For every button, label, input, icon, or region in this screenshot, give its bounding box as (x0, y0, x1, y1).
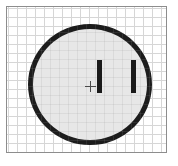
center-cross-icon (85, 81, 96, 92)
graph-paper-sheet (6, 6, 167, 153)
screenshot-root (0, 0, 178, 166)
center-cross-vertical-bar (90, 81, 91, 92)
outlet-slot-left (97, 60, 102, 93)
outlet-slot-right (131, 60, 136, 93)
figure-caption (0, 0, 1, 1)
